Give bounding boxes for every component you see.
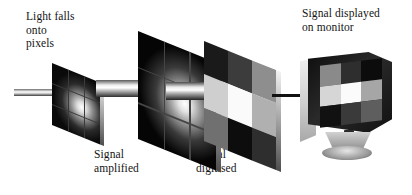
pixel-cell bbox=[341, 81, 362, 104]
pixel-array-panel bbox=[52, 63, 100, 144]
monitor-screen-pixel-grid bbox=[320, 58, 382, 128]
panel-edge bbox=[276, 70, 281, 172]
grid-line bbox=[84, 76, 85, 138]
diagram-canvas: Light falls onto pixels Signal amplified… bbox=[0, 0, 412, 195]
grid-line bbox=[164, 41, 165, 150]
grid-line bbox=[52, 83, 100, 103]
pixel-cell bbox=[361, 100, 382, 123]
pixel-cell bbox=[320, 63, 341, 86]
grid-line bbox=[52, 104, 100, 124]
pixel-cell bbox=[361, 58, 382, 81]
caption-light-falls-onto-pixels: Light falls onto pixels bbox=[26, 10, 75, 51]
pixel-cell bbox=[341, 61, 362, 84]
pixel-cell bbox=[341, 102, 362, 125]
monitor-display bbox=[300, 52, 398, 160]
grid-line bbox=[68, 69, 69, 131]
pixel-cell bbox=[361, 79, 382, 102]
caption-signal-displayed-on-monitor: Signal displayed on monitor bbox=[302, 7, 380, 34]
pixel-cell bbox=[320, 84, 341, 107]
pixel-cell bbox=[320, 105, 341, 128]
caption-signal-amplified: Signal amplified bbox=[94, 148, 139, 175]
monitor-base bbox=[322, 146, 372, 160]
grid-line bbox=[189, 52, 190, 161]
panel-face bbox=[52, 63, 100, 144]
